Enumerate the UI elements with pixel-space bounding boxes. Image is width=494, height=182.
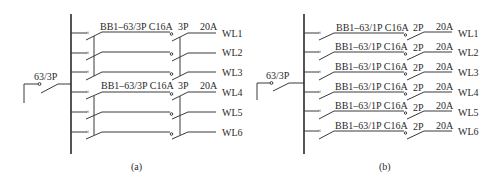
rcd-rating-b-5: 20A xyxy=(436,100,454,111)
svg-text:×: × xyxy=(318,128,321,134)
main-breaker-label-a: 63/3P xyxy=(34,71,58,82)
diagram-b: 63/3P × × xyxy=(257,14,479,173)
circuit-label-a-6: WL6 xyxy=(222,127,243,138)
circuit-label-a-4: WL4 xyxy=(222,87,243,98)
rcd-rating-b-6: 20A xyxy=(436,120,454,131)
rcd-poles-a-2: 3P xyxy=(178,80,189,91)
breaker-label-b-1: BB1–63/1P C16A xyxy=(336,22,409,33)
rcd-rating-a-1: 20A xyxy=(200,21,218,32)
rcd-rating-b-4: 20A xyxy=(436,81,454,92)
rcd-poles-b-3: 2P xyxy=(413,62,424,73)
rcd-rating-b-1: 20A xyxy=(436,21,454,32)
branch-a-3: × xyxy=(71,69,216,80)
caption-a: (a) xyxy=(131,161,142,173)
svg-text:×: × xyxy=(318,30,321,36)
branch-a-5: × xyxy=(71,109,216,119)
circuit-label-b-3: WL3 xyxy=(458,67,479,78)
svg-text:×: × xyxy=(86,50,89,56)
branch-a-6: × xyxy=(71,129,216,139)
main-breaker-label-b: 63/3P xyxy=(266,70,290,81)
diagram-a: 63/3P × × xyxy=(24,14,243,173)
circuit-label-a-5: WL5 xyxy=(222,107,243,118)
circuit-label-b-1: WL1 xyxy=(458,28,479,39)
rcd-poles-b-1: 2P xyxy=(413,22,424,33)
rcd-poles-b-4: 2P xyxy=(413,82,424,93)
circuit-label-b-2: WL2 xyxy=(458,47,479,58)
breaker-label-a-1: BB1–63/3P C16A xyxy=(100,21,173,32)
svg-text:×: × xyxy=(318,49,321,55)
wiring-diagrams: 63/3P × × xyxy=(0,0,494,182)
svg-text:×: × xyxy=(318,69,321,75)
breaker-label-b-4: BB1–63/1P C16A xyxy=(335,81,408,92)
breaker-label-b-2: BB1–63/1P C16A xyxy=(335,41,408,52)
rcd-poles-b-6: 2P xyxy=(413,121,424,132)
circuit-label-a-3: WL3 xyxy=(222,67,243,78)
svg-text:×: × xyxy=(86,109,89,115)
rcd-rating-a-2: 20A xyxy=(200,80,218,91)
rcd-poles-b-5: 2P xyxy=(413,102,424,113)
branch-a-2: × xyxy=(71,50,216,61)
svg-text:×: × xyxy=(318,89,321,95)
svg-text:×: × xyxy=(86,69,89,75)
svg-text:×: × xyxy=(86,30,89,36)
rcd-rating-b-2: 20A xyxy=(436,41,454,52)
breaker-label-b-6: BB1–63/1P C16A xyxy=(335,120,408,131)
svg-text:×: × xyxy=(86,129,89,135)
svg-text:×: × xyxy=(86,89,89,95)
circuit-label-b-6: WL6 xyxy=(458,126,479,137)
circuit-label-b-4: WL4 xyxy=(458,87,479,98)
main-breaker-b: 63/3P xyxy=(257,70,304,100)
rcd-rating-b-3: 20A xyxy=(436,61,454,72)
caption-b: (b) xyxy=(379,161,391,173)
breaker-label-b-3: BB1–63/1P C16A xyxy=(335,61,408,72)
circuit-label-b-5: WL5 xyxy=(458,107,479,118)
breaker-label-b-5: BB1–63/1P C16A xyxy=(335,100,408,111)
rcd-poles-a-1: 3P xyxy=(178,21,189,32)
circuit-label-a-1: WL1 xyxy=(222,28,243,39)
circuit-label-a-2: WL2 xyxy=(222,47,243,58)
svg-text:×: × xyxy=(318,108,321,114)
rcd-poles-b-2: 2P xyxy=(413,42,424,53)
breaker-label-a-2: BB1–63/3P C16A xyxy=(101,80,174,91)
main-breaker-a: 63/3P xyxy=(24,71,71,103)
